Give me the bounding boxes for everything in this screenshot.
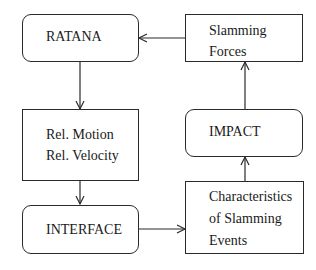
node-label: IMPACT bbox=[209, 121, 261, 142]
node-label: Rel. Velocity bbox=[46, 145, 119, 166]
node-impact: IMPACT bbox=[185, 109, 303, 157]
node-slamming-forces: Slamming Forces bbox=[185, 14, 303, 62]
node-ratana: RATANA bbox=[22, 14, 139, 62]
node-label: INTERFACE bbox=[46, 219, 122, 240]
node-label: Events bbox=[209, 230, 247, 251]
node-characteristics: Characteristics of Slamming Events bbox=[185, 181, 304, 254]
node-label: RATANA bbox=[46, 26, 102, 47]
node-label: Slamming bbox=[209, 20, 267, 41]
node-rel-motion: Rel. Motion Rel. Velocity bbox=[22, 109, 139, 181]
node-interface: INTERFACE bbox=[22, 205, 139, 254]
node-label: Rel. Motion bbox=[46, 124, 114, 145]
node-label: of Slamming bbox=[209, 208, 282, 229]
node-label: Forces bbox=[209, 41, 246, 62]
node-label: Characteristics bbox=[209, 186, 292, 207]
